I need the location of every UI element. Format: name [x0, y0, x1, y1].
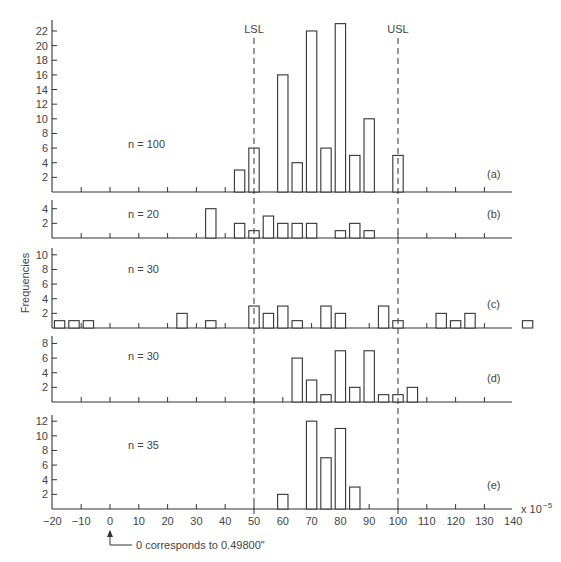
x-tick-label: −20 — [43, 515, 62, 527]
y-tick-label: 22 — [36, 25, 48, 37]
histogram-bar — [278, 494, 288, 509]
histogram-bar — [54, 321, 64, 328]
histogram-bar — [321, 306, 331, 328]
panel-id-label: (b) — [487, 208, 500, 220]
histogram-bar — [335, 351, 345, 402]
y-tick-label: 12 — [36, 415, 48, 427]
histogram-bar — [321, 148, 331, 192]
x-tick-label: 90 — [363, 515, 375, 527]
x-tick-label: 30 — [190, 515, 202, 527]
y-tick-label: 4 — [42, 293, 48, 305]
histogram-bar — [378, 306, 388, 328]
y-tick-label: 10 — [36, 113, 48, 125]
x-tick-label: 0 — [107, 515, 113, 527]
histogram-bar — [321, 458, 331, 509]
y-tick-label: 10 — [36, 249, 48, 261]
y-tick-label: 4 — [42, 474, 48, 486]
x-tick-label: −10 — [72, 515, 91, 527]
histogram-bar — [335, 428, 345, 509]
histogram-bar — [450, 321, 460, 328]
histogram-bar — [292, 163, 302, 192]
histogram-bar — [350, 223, 360, 238]
histogram-bar — [263, 216, 273, 238]
y-tick-label: 14 — [36, 84, 48, 96]
y-tick-label: 20 — [36, 40, 48, 52]
histogram-bar — [306, 223, 316, 238]
x-tick-label: 40 — [219, 515, 231, 527]
histogram-bar — [335, 313, 345, 328]
histogram-bar — [177, 313, 187, 328]
y-tick-label: 8 — [42, 263, 48, 275]
y-tick-label: 8 — [42, 337, 48, 349]
y-tick-label: 2 — [42, 307, 48, 319]
histogram-bar — [306, 380, 316, 402]
histogram-bar — [206, 321, 216, 328]
x-unit-exponent: −5 — [543, 501, 553, 510]
histogram-bar — [306, 31, 316, 192]
histogram-bar — [292, 321, 302, 328]
x-tick-label: 80 — [334, 515, 346, 527]
usl-label: USL — [387, 23, 408, 35]
panel-id-label: (e) — [487, 479, 500, 491]
y-tick-label: 8 — [42, 444, 48, 456]
histogram-bar — [522, 321, 532, 328]
x-tick-label: 20 — [161, 515, 173, 527]
sample-size-label: n = 100 — [128, 138, 165, 150]
sample-size-label: n = 30 — [128, 263, 159, 275]
histogram-bar — [335, 231, 345, 238]
histogram-bar — [278, 306, 288, 328]
histogram-bar — [465, 313, 475, 328]
histogram-bar — [350, 387, 360, 402]
histogram-bar — [378, 395, 388, 402]
x-tick-label: 50 — [248, 515, 260, 527]
y-tick-label: 4 — [42, 367, 48, 379]
y-tick-label: 2 — [42, 381, 48, 393]
y-tick-label: 8 — [42, 127, 48, 139]
histogram-bar — [278, 75, 288, 192]
histogram-bar — [69, 321, 79, 328]
chart-figure: 246810121416182022n = 100(a)24n = 20(b)2… — [0, 0, 561, 562]
x-tick-label: 70 — [305, 515, 317, 527]
y-tick-label: 4 — [42, 203, 48, 215]
x-tick-label: 60 — [277, 515, 289, 527]
histogram-bar — [83, 321, 93, 328]
y-tick-label: 2 — [42, 488, 48, 500]
y-tick-label: 2 — [42, 171, 48, 183]
histogram-bar — [234, 170, 244, 192]
histogram-bar — [263, 313, 273, 328]
panel-id-label: (c) — [487, 298, 500, 310]
histogram-bar — [364, 351, 374, 402]
histogram-bar — [364, 231, 374, 238]
y-tick-label: 6 — [42, 459, 48, 471]
y-tick-label: 2 — [42, 217, 48, 229]
panel-id-label: (d) — [487, 372, 500, 384]
histogram-bar — [335, 24, 345, 192]
x-tick-label: 100 — [389, 515, 407, 527]
y-tick-label: 16 — [36, 69, 48, 81]
histogram-bar — [364, 119, 374, 192]
y-tick-label: 4 — [42, 157, 48, 169]
x-unit-label: x 10 — [521, 503, 542, 515]
histogram-bar — [436, 313, 446, 328]
footnote-text: 0 corresponds to 0.49800" — [136, 539, 265, 551]
y-axis-title: Frequencies — [19, 252, 31, 313]
histogram-bar — [321, 395, 331, 402]
y-tick-label: 12 — [36, 98, 48, 110]
x-tick-label: 10 — [133, 515, 145, 527]
histogram-bar — [206, 209, 216, 238]
x-tick-label: 120 — [446, 515, 464, 527]
histogram-stack: 246810121416182022n = 100(a)24n = 20(b)2… — [0, 0, 561, 562]
x-tick-label: 140 — [504, 515, 522, 527]
arrow-up-icon — [107, 530, 113, 537]
histogram-bar — [350, 155, 360, 192]
y-tick-label: 6 — [42, 352, 48, 364]
histogram-bar — [292, 223, 302, 238]
x-tick-label: 110 — [418, 515, 436, 527]
sample-size-label: n = 20 — [128, 208, 159, 220]
histogram-bar — [278, 223, 288, 238]
y-tick-label: 10 — [36, 430, 48, 442]
histogram-bar — [407, 387, 417, 402]
histogram-bar — [292, 358, 302, 402]
sample-size-label: n = 30 — [128, 350, 159, 362]
y-tick-label: 18 — [36, 54, 48, 66]
